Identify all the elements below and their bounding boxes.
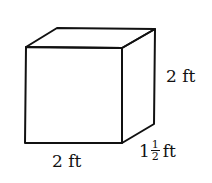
top-face [26, 28, 155, 48]
depth-fraction: 1 2 [151, 139, 160, 162]
depth-denominator: 2 [151, 151, 160, 162]
depth-label: 1 1 2 ft [139, 140, 176, 163]
depth-whole: 1 [139, 143, 150, 160]
depth-unit: ft [163, 143, 176, 160]
front-face [25, 47, 122, 143]
width-label: 2 ft [52, 153, 81, 170]
height-label: 2 ft [166, 68, 195, 85]
side-face [122, 29, 155, 143]
prism-drawing [0, 0, 212, 183]
